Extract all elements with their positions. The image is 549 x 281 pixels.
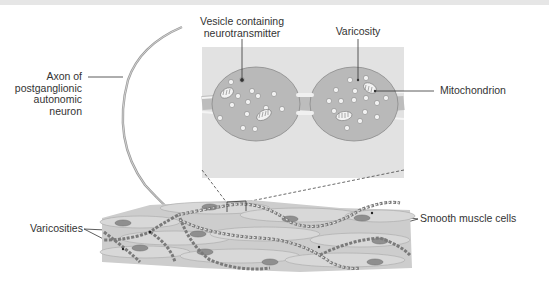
label-axon-line1: Axon of	[0, 71, 82, 83]
label-varicosity-text: Varicosity	[336, 25, 381, 37]
axon	[123, 27, 182, 218]
label-varicosities-text: Varicosities	[30, 222, 83, 234]
label-axon: Axon of postganglionic autonomic neuron	[0, 71, 82, 117]
label-mitochondrion-text: Mitochondrion	[440, 84, 506, 96]
smooth-muscle-tissue	[100, 200, 415, 272]
diagram-canvas	[0, 0, 549, 281]
label-smooth-muscle-text: Smooth muscle cells	[420, 212, 516, 224]
label-axon-line4: neuron	[0, 106, 82, 118]
label-vesicle: Vesicle containing neurotransmitter	[190, 16, 294, 39]
label-vesicle-line1: Vesicle containing	[190, 16, 294, 28]
label-mitochondrion: Mitochondrion	[440, 85, 506, 97]
label-vesicle-line2: neurotransmitter	[190, 28, 294, 40]
varicosity-right	[310, 67, 398, 141]
label-varicosities: Varicosities	[30, 223, 83, 235]
label-varicosity: Varicosity	[318, 26, 398, 38]
inset-magnified-view	[202, 47, 404, 178]
label-smooth-muscle: Smooth muscle cells	[420, 213, 516, 225]
label-axon-line3: autonomic	[0, 94, 82, 106]
